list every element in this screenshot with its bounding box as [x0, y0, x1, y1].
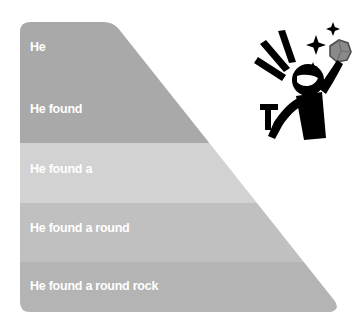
- pyramid-tier-label-5: He found a round rock: [30, 280, 158, 293]
- pyramid-tier-label-1: He: [30, 41, 45, 54]
- rock-icon: [330, 40, 351, 62]
- pyramid-tier-label-3: He found a: [30, 163, 92, 176]
- pyramid-tier-label-2: He found: [30, 103, 82, 116]
- motion-lines-icon: [254, 30, 296, 81]
- sentence-expansion-graphic: He He found He found a He found a round …: [0, 0, 356, 329]
- pyramid-tier-label-4: He found a round: [30, 222, 129, 235]
- stick-figure-holding-rock-icon: [252, 18, 356, 142]
